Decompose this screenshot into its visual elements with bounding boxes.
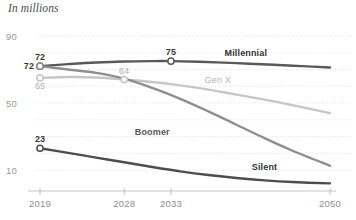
data-point-markers: [37, 58, 174, 151]
x-axis-tick-label: 2050: [319, 198, 341, 209]
data-lines: [40, 61, 330, 183]
data-point-value-label: 72: [24, 61, 34, 71]
series-label-boomer: Boomer: [135, 127, 170, 137]
data-point-marker: [168, 58, 174, 64]
series-label-millennial: Millennial: [225, 48, 268, 58]
data-point-marker: [37, 63, 43, 69]
data-point-marker: [37, 145, 43, 151]
data-point-value-label: 23: [35, 134, 45, 144]
data-point-value-label: 64: [119, 66, 129, 76]
series-label-gen-x: Gen X: [205, 75, 231, 85]
series-line-gen-x: [40, 77, 330, 113]
series-label-silent: Silent: [252, 162, 277, 172]
data-point-value-label: 75: [166, 47, 176, 57]
x-axis: 2019202820332050: [28, 188, 341, 209]
y-axis-tick-label: 90: [6, 31, 17, 42]
y-axis-tick-label: 50: [6, 98, 17, 109]
data-point-value-label: 72: [35, 52, 45, 62]
chart-plot-area: 905010 2019202820332050 727565647223 Mil…: [0, 0, 356, 220]
x-axis-tick-label: 2028: [113, 198, 135, 209]
series-line-millennial: [40, 61, 330, 67]
gridlines: [36, 36, 352, 170]
series-line-boomer: [40, 66, 330, 166]
data-point-value-label: 65: [35, 81, 45, 91]
y-axis-tick-label: 10: [6, 165, 17, 176]
x-axis-tick-label: 2019: [29, 198, 51, 209]
generations-population-chart: In millions 905010 2019202820332050 7275…: [0, 0, 356, 220]
y-axis-tick-labels: 905010: [6, 31, 17, 176]
x-axis-tick-label: 2033: [160, 198, 182, 209]
data-point-marker: [121, 76, 127, 82]
